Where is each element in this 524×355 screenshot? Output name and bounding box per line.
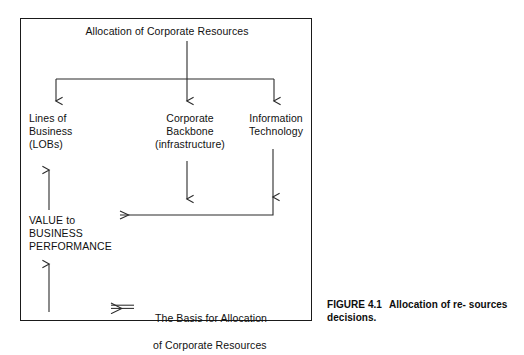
figure-caption: FIGURE 4.1Allocation of re- sources deci… — [327, 299, 517, 324]
diagram-connectors — [21, 19, 313, 322]
node-basis-line1: The Basis for Allocation — [155, 312, 267, 324]
node-basis-line2: of Corporate Resources — [137, 339, 267, 352]
node-basis-for-allocation: The Basis for Allocation of Corporate Re… — [137, 299, 267, 355]
node-corporate-backbone: Corporate Backbone (infrastructure) — [135, 112, 245, 152]
node-allocation-of-corporate-resources: Allocation of Corporate Resources — [59, 25, 275, 38]
node-value-to-business-performance: VALUE to BUSINESS PERFORMANCE — [29, 214, 112, 254]
node-information-technology: Information Technology — [239, 112, 313, 138]
edge-it-to-value — [120, 149, 273, 215]
figure-caption-text: Allocation of re- — [389, 299, 466, 310]
node-lines-of-business: Lines of Business (LOBs) — [29, 112, 72, 152]
figure-caption-label: FIGURE 4.1 — [327, 299, 382, 310]
diagram-frame: Allocation of Corporate Resources Lines … — [20, 18, 312, 321]
edge-basis-double-arrow — [111, 305, 134, 308]
